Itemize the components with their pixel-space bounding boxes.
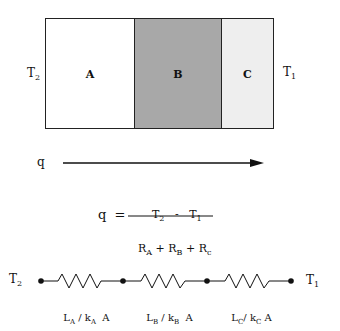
area-symbol: A [265, 312, 272, 323]
length-sub: B [153, 318, 158, 326]
length-sub: A [70, 318, 75, 326]
den-ra-sub: A [146, 248, 152, 257]
equation-denominator: RA + RB + Rc [131, 229, 211, 257]
resistor-b-label: LB / kB A [140, 301, 193, 326]
equation-lhs: q = [98, 207, 126, 222]
node-left [38, 278, 44, 284]
node-right [288, 278, 294, 284]
equation-q: q [98, 207, 106, 222]
area-symbol: A [185, 312, 192, 323]
node-bc [204, 278, 210, 284]
length-symbol: L [146, 312, 153, 323]
length-symbol: L [63, 312, 70, 323]
heat-flux-arrow [63, 159, 264, 167]
den-rb-sub: B [177, 248, 183, 257]
conductivity-sub: C [256, 318, 261, 326]
divide: / [78, 312, 81, 323]
conductivity-sub: A [91, 318, 96, 326]
temp-symbol: T [306, 273, 314, 287]
conductivity-sub: B [174, 318, 179, 326]
den-rb: R [168, 242, 176, 255]
num-t1-sub: 1 [197, 214, 202, 223]
resistor-a-label: LA / kA A [57, 301, 110, 326]
equation-numerator: T2 - T1 [145, 195, 202, 223]
temp-subscript: 2 [17, 279, 22, 288]
area-symbol: A [102, 312, 109, 323]
plus-sign: + [156, 242, 165, 255]
divide: / [161, 312, 164, 323]
num-t2-sub: 2 [159, 214, 164, 223]
equals-sign: = [115, 207, 126, 222]
temp-symbol: T [9, 272, 17, 286]
den-rc-sub: c [207, 248, 211, 257]
minus-sign: - [175, 208, 179, 221]
resistor-c-label: LC/ kC A [225, 301, 272, 326]
circuit-left-temperature: T2 [9, 272, 22, 288]
length-symbol: L [231, 312, 238, 323]
num-t1: T [189, 208, 196, 221]
circuit-right-temperature: T1 [306, 273, 319, 289]
divide: / [243, 312, 246, 323]
thermal-circuit-wire [41, 274, 291, 288]
plus-sign: + [186, 242, 195, 255]
den-rc: R [199, 242, 207, 255]
node-ab [120, 278, 126, 284]
temp-subscript: 1 [314, 280, 319, 289]
diagram-lines [0, 0, 340, 331]
